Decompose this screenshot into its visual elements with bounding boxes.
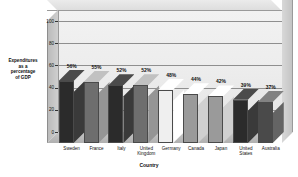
- chart-container: 020406080100 Expenditures as a percentag…: [0, 0, 298, 177]
- bar-top-face: [183, 83, 209, 94]
- bar-united-kingdom[interactable]: [133, 74, 148, 143]
- bar-top-face: [233, 89, 259, 100]
- bar-top-face: [59, 70, 85, 81]
- bar-side-face: [273, 102, 284, 143]
- bar-canada[interactable]: [183, 83, 198, 143]
- bar-front-face: [183, 94, 198, 143]
- bar-united-states[interactable]: [233, 89, 248, 143]
- data-label: 37%: [256, 84, 286, 90]
- bar-france[interactable]: [84, 71, 99, 143]
- bar-sweden[interactable]: [59, 70, 74, 143]
- bar-japan[interactable]: [208, 85, 223, 143]
- bar-front-face: [133, 85, 148, 143]
- x-axis-title: Country: [0, 162, 298, 168]
- bar-front-face: [258, 102, 273, 143]
- bar-top-face: [258, 91, 284, 102]
- bar-germany[interactable]: [158, 79, 173, 143]
- bar-front-face: [208, 96, 223, 143]
- bar-australia[interactable]: [258, 91, 273, 143]
- bar-front-face: [108, 85, 123, 143]
- bar-front-face: [233, 100, 248, 143]
- bar-front-face: [84, 82, 99, 143]
- bar-front-face: [59, 81, 74, 143]
- bar-top-face: [108, 74, 134, 85]
- x-category-australia: Australia: [254, 146, 288, 151]
- bar-front-face: [158, 90, 173, 143]
- bar-italy[interactable]: [108, 74, 123, 143]
